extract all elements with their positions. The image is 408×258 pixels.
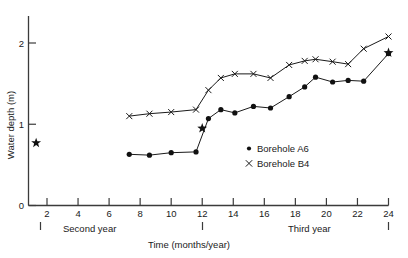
water-depth-chart: 012 24681012141618202224 Second year Thi… bbox=[0, 0, 408, 258]
x-tick-label-22: 22 bbox=[352, 208, 363, 219]
x-tick-label-12: 12 bbox=[197, 208, 208, 219]
x-tick-label-18: 18 bbox=[290, 208, 301, 219]
y-tick-label-2: 2 bbox=[19, 38, 24, 49]
data-point-dot bbox=[302, 84, 307, 89]
y-tick-label-1: 1 bbox=[19, 119, 24, 130]
third-year-label: Third year bbox=[288, 223, 331, 234]
data-point-dot bbox=[232, 110, 237, 115]
data-point-dot bbox=[127, 152, 132, 157]
x-tick-label-8: 8 bbox=[137, 208, 142, 219]
data-point-dot bbox=[193, 149, 198, 154]
data-point-cross bbox=[205, 87, 211, 93]
second-year-label: Second year bbox=[63, 223, 116, 234]
data-point-dot bbox=[330, 79, 335, 84]
legend-label-borehole-b4: Borehole B4 bbox=[257, 158, 309, 169]
x-tick-label-14: 14 bbox=[228, 208, 239, 219]
data-point-star bbox=[31, 138, 41, 147]
x-tick-label-6: 6 bbox=[106, 208, 111, 219]
y-tick-label-0: 0 bbox=[19, 200, 24, 211]
series-line-borehole-b4 bbox=[129, 37, 388, 117]
data-point-dot bbox=[147, 153, 152, 158]
series-line-borehole-a6 bbox=[129, 54, 388, 156]
legend-dot-icon bbox=[247, 146, 251, 150]
data-point-dot bbox=[313, 75, 318, 80]
x-axis-title: Time (months/year) bbox=[148, 239, 230, 250]
series-borehole-a6 bbox=[127, 51, 391, 158]
x-tick-label-16: 16 bbox=[259, 208, 270, 219]
data-point-cross bbox=[361, 46, 367, 52]
chart-legend: Borehole A6 Borehole B4 bbox=[246, 143, 309, 169]
y-axis-tick-labels: 012 bbox=[19, 38, 24, 212]
x-axis-tick-labels: 24681012141618202224 bbox=[44, 208, 393, 219]
x-tick-label-20: 20 bbox=[321, 208, 332, 219]
legend-cross-icon bbox=[246, 160, 252, 166]
data-point-cross bbox=[286, 62, 292, 68]
x-tick-label-4: 4 bbox=[75, 208, 80, 219]
data-point-dot bbox=[287, 94, 292, 99]
x-tick-label-2: 2 bbox=[44, 208, 49, 219]
y-axis-title: Water depth (m) bbox=[5, 91, 16, 159]
data-point-dot bbox=[218, 107, 223, 112]
legend-label-borehole-a6: Borehole A6 bbox=[257, 143, 309, 154]
series-borehole-b4 bbox=[126, 34, 391, 120]
data-point-dot bbox=[268, 105, 273, 110]
x-tick-label-10: 10 bbox=[166, 208, 177, 219]
data-point-dot bbox=[251, 104, 256, 109]
x-tick-label-24: 24 bbox=[383, 208, 394, 219]
data-point-cross bbox=[218, 75, 224, 81]
data-point-cross bbox=[386, 34, 392, 40]
data-point-dot bbox=[361, 79, 366, 84]
data-point-dot bbox=[169, 150, 174, 155]
data-point-dot bbox=[346, 78, 351, 83]
y-axis-ticks bbox=[29, 43, 37, 206]
x-axis-ticks bbox=[47, 198, 389, 206]
chart-canvas: 012 24681012141618202224 Second year Thi… bbox=[0, 0, 408, 258]
data-point-dot bbox=[206, 116, 211, 121]
